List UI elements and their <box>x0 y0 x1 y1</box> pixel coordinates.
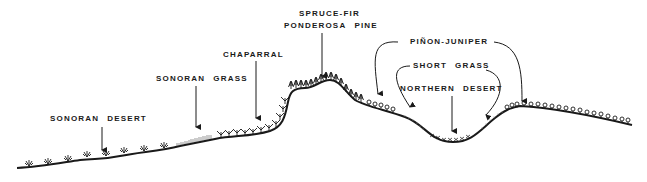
label-northern-desert-word2: DESERT <box>463 84 503 93</box>
ground-profile-line <box>17 80 632 168</box>
sonoran-desert-plants <box>25 142 168 166</box>
label-short-grass-word1: SHORT <box>413 61 447 70</box>
label-chaparral: CHAPARRAL <box>223 50 284 60</box>
label-short-grass: SHORTGRASS <box>413 61 489 71</box>
label-ponderosa-pine-word2: PINE <box>354 21 377 30</box>
label-sonoran-desert-word1: SONORAN <box>50 114 99 123</box>
label-short-grass-word2: GRASS <box>455 61 489 70</box>
label-sonoran-desert: SONORANDESERT <box>50 114 147 124</box>
chaparral-shrubs <box>217 97 289 138</box>
label-pinon-juniper: PIÑON-JUNIPER <box>410 37 488 47</box>
arrow-pinon-juniper-left <box>375 42 398 94</box>
label-ponderosa-pine: PONDEROSAPINE <box>284 21 378 31</box>
label-sonoran-grass: SONORANGRASS <box>156 74 248 84</box>
label-northern-desert-word1: NORTHERN <box>400 84 455 93</box>
label-northern-desert: NORTHERNDESERT <box>400 84 503 94</box>
short-grass-stipple <box>404 111 502 129</box>
label-sonoran-desert-word2: DESERT <box>107 114 147 123</box>
label-spruce-fir: SPRUCE-FIR <box>299 9 360 19</box>
label-sonoran-grass-word2: GRASS <box>213 74 247 83</box>
label-ponderosa-pine-word1: PONDEROSA <box>284 21 346 30</box>
label-sonoran-grass-word1: SONORAN <box>156 74 205 83</box>
